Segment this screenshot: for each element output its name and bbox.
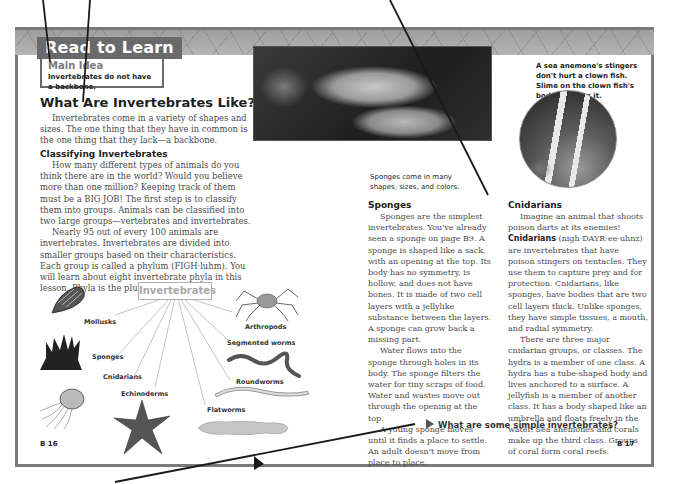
- cursor-arrow-icon: [254, 456, 264, 470]
- annotation-lines: [0, 0, 673, 484]
